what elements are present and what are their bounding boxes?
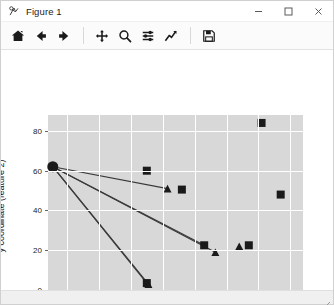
scatter-data-layer [48,115,303,290]
move-icon[interactable] [91,25,112,46]
y-tick [45,171,48,172]
gridline-horizontal [48,250,303,251]
arrow-left-icon[interactable] [30,25,51,46]
arrow-right-icon[interactable] [53,25,74,46]
y-tick [45,131,48,132]
y-tick-label: 20 [33,246,42,255]
data-point-square [277,191,285,199]
y-tick-label: 80 [33,126,42,135]
y-axis-label: y coordinate (feature 2) [1,159,6,252]
y-tick [45,210,48,211]
status-bar [1,290,333,304]
data-point-triangle [235,242,243,250]
gridline-horizontal [48,171,303,172]
toolbar-separator [83,27,84,44]
home-icon[interactable] [7,25,28,46]
gridline-vertical [99,115,100,290]
minimize-button[interactable] [243,1,273,21]
floppy-disk-icon[interactable] [198,25,219,46]
chart-line-icon[interactable] [160,25,181,46]
gridline-vertical [227,115,228,290]
resize-grip-icon[interactable] [322,294,331,303]
maximize-button[interactable] [273,1,303,21]
gridline-vertical [290,115,291,290]
gridline-horizontal [48,210,303,211]
plot-area-wrapper: 30405060708090100020406080 x coordinate … [1,50,333,290]
window-title: Figure 1 [26,6,62,17]
gridline-vertical [131,115,132,290]
route-line [53,167,204,246]
y-tick-label: 60 [33,166,42,175]
data-point-square [178,186,186,194]
sliders-icon[interactable] [137,25,158,46]
plot-axes[interactable] [48,115,303,290]
close-button[interactable] [303,1,333,21]
gridline-vertical [258,115,259,290]
data-point-square [200,241,208,249]
title-bar: Figure 1 [1,1,333,22]
figure-window: Figure 1 [0,0,334,305]
magnifier-icon[interactable] [114,25,135,46]
navigation-toolbar [1,22,333,50]
gridline-vertical [67,115,68,290]
gridline-horizontal [48,131,303,132]
matplotlib-figure-icon [5,2,23,20]
y-tick-label: 40 [33,206,42,215]
figure-canvas[interactable]: 30405060708090100020406080 x coordinate … [1,50,333,290]
gridline-vertical [163,115,164,290]
gridline-vertical [195,115,196,290]
y-tick [45,250,48,251]
data-point-square [245,241,253,249]
toolbar-separator [190,27,191,44]
